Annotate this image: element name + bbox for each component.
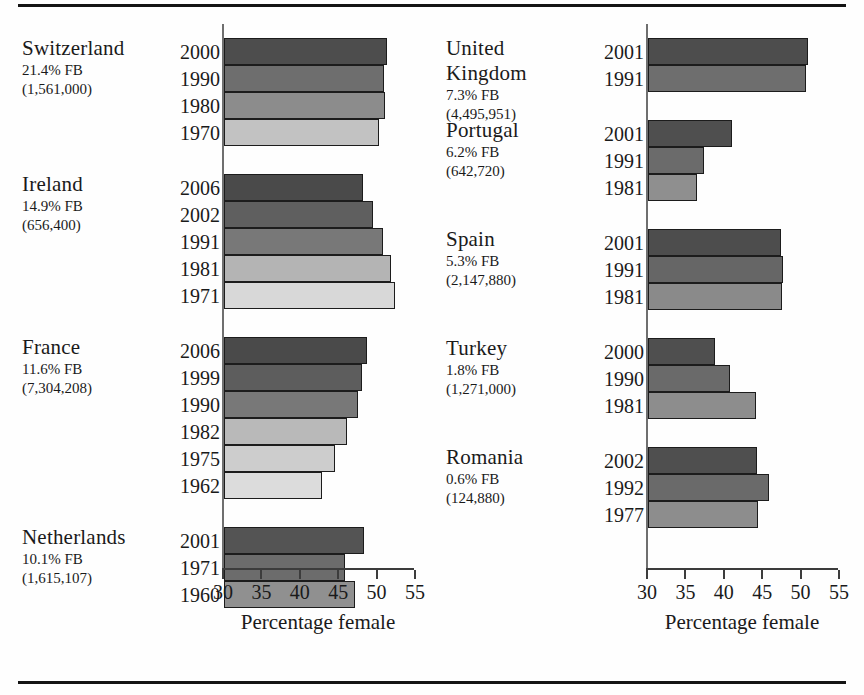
year-label: 1991 (604, 151, 644, 171)
x-axis-tick (723, 570, 725, 579)
x-axis-tick (414, 570, 416, 579)
year-label: 2006 (180, 178, 220, 198)
bar (224, 418, 347, 445)
bar (224, 119, 379, 146)
year-label: 1981 (604, 287, 644, 307)
year-label: 1982 (180, 422, 220, 442)
bar (224, 174, 363, 201)
bottom-rule (18, 681, 846, 684)
bar (648, 474, 769, 501)
x-axis-tick (299, 570, 301, 579)
x-axis-tick-label: 55 (829, 581, 849, 604)
bar (648, 38, 808, 65)
bar (224, 65, 384, 92)
chart-panel-left: Switzerland21.4% FB(1,561,000)Ireland14.… (14, 24, 426, 664)
year-label: 1971 (180, 558, 220, 578)
x-axis-tick-label: 30 (637, 581, 657, 604)
bar (648, 229, 781, 256)
x-axis-title: Percentage female (222, 610, 414, 635)
year-label: 1981 (180, 259, 220, 279)
year-label: 1992 (604, 478, 644, 498)
bar (648, 120, 732, 147)
year-label: 1991 (180, 232, 220, 252)
chart-panel-right: United Kingdom7.3% FB(4,495,951)Portugal… (438, 24, 850, 664)
x-axis-tick (684, 570, 686, 579)
bar (648, 447, 757, 474)
year-label: 1999 (180, 368, 220, 388)
year-label: 1981 (604, 178, 644, 198)
x-axis-tick-label: 30 (213, 581, 233, 604)
year-label: 1990 (180, 395, 220, 415)
bar (224, 527, 364, 554)
figure-root: Switzerland21.4% FB(1,561,000)Ireland14.… (0, 0, 864, 695)
label-column: United Kingdom7.3% FB(4,495,951)Portugal… (438, 24, 644, 584)
x-axis-tick (260, 570, 262, 579)
bar (648, 147, 704, 174)
bar (224, 92, 385, 119)
year-label: 2002 (604, 451, 644, 471)
bar (224, 364, 362, 391)
x-axis-tick-label: 35 (251, 581, 271, 604)
x-axis-line (646, 568, 838, 570)
bar (224, 228, 383, 255)
year-label: 1981 (604, 396, 644, 416)
year-label: 1980 (180, 96, 220, 116)
x-axis: 303540455055Percentage female (646, 568, 842, 658)
bar (224, 445, 335, 472)
year-label: 2001 (604, 42, 644, 62)
year-label: 2000 (180, 42, 220, 62)
x-axis-tick (337, 570, 339, 579)
x-axis-line (222, 568, 414, 570)
year-label: 1977 (604, 505, 644, 525)
bar (648, 174, 697, 201)
bar (224, 255, 391, 282)
top-rule (18, 4, 846, 7)
x-axis-tick-label: 50 (791, 581, 811, 604)
year-label: 2006 (180, 341, 220, 361)
bar (648, 392, 756, 419)
x-axis-tick-label: 40 (714, 581, 734, 604)
year-label: 1971 (180, 286, 220, 306)
year-label: 1991 (604, 69, 644, 89)
x-axis-tick-label: 35 (675, 581, 695, 604)
bar (224, 282, 395, 309)
x-axis: 303540455055Percentage female (222, 568, 418, 658)
year-label: 1962 (180, 476, 220, 496)
x-axis-tick (761, 570, 763, 579)
plot-area (222, 24, 418, 584)
bar (648, 283, 782, 310)
year-label: 1991 (604, 260, 644, 280)
year-label: 2000 (604, 342, 644, 362)
year-label: 2001 (604, 124, 644, 144)
label-column: Switzerland21.4% FB(1,561,000)Ireland14.… (14, 24, 220, 584)
year-label: 1990 (180, 69, 220, 89)
year-label: 1990 (604, 369, 644, 389)
x-axis-tick-label: 50 (367, 581, 387, 604)
bar (224, 337, 367, 364)
x-axis-tick (646, 570, 648, 579)
bar (648, 365, 730, 392)
x-axis-tick-label: 45 (752, 581, 772, 604)
x-axis-tick (800, 570, 802, 579)
bar (224, 472, 322, 499)
bar (224, 391, 358, 418)
x-axis-tick (376, 570, 378, 579)
bar (648, 338, 715, 365)
year-label: 1975 (180, 449, 220, 469)
x-axis-tick-label: 55 (405, 581, 425, 604)
x-axis-tick-label: 40 (290, 581, 310, 604)
bar (648, 256, 783, 283)
bar (648, 501, 758, 528)
plot-area (646, 24, 842, 584)
year-label: 2002 (180, 205, 220, 225)
x-axis-title: Percentage female (646, 610, 838, 635)
x-axis-tick-label: 45 (328, 581, 348, 604)
year-label: 1970 (180, 123, 220, 143)
bar (224, 201, 373, 228)
x-axis-tick (838, 570, 840, 579)
year-label: 2001 (180, 531, 220, 551)
bar (224, 38, 387, 65)
x-axis-tick (222, 570, 224, 579)
year-label: 2001 (604, 233, 644, 253)
bar (648, 65, 806, 92)
